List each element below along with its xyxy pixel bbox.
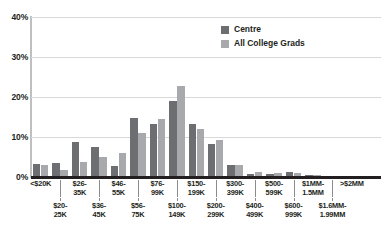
bars-layer bbox=[31, 17, 381, 177]
legend-swatch-icon-centre bbox=[221, 26, 229, 34]
x-axis-tick-mark bbox=[294, 198, 295, 201]
bar bbox=[138, 133, 145, 177]
y-axis-tick-label: 40% bbox=[0, 12, 28, 22]
bar-group bbox=[150, 17, 165, 177]
bar bbox=[208, 144, 215, 177]
x-axis-labels: <$20K$20-25K$26-35K$36-45K$46-55K$56-75K… bbox=[31, 179, 381, 227]
y-axis-labels: 0%10%20%30%40% bbox=[0, 0, 28, 227]
bar bbox=[99, 157, 106, 177]
bar-group bbox=[189, 17, 204, 177]
bar-group bbox=[325, 17, 340, 177]
bar-group bbox=[91, 17, 106, 177]
legend-swatch-icon-all-college-grads bbox=[221, 40, 229, 48]
bar-group bbox=[33, 17, 48, 177]
bar bbox=[130, 118, 137, 177]
x-axis-tick-mark bbox=[332, 198, 333, 201]
legend-label-all-college-grads: All College Grads bbox=[234, 39, 305, 48]
bar bbox=[52, 163, 59, 177]
y-axis-tick-label: 30% bbox=[0, 52, 28, 62]
bar-group bbox=[72, 17, 87, 177]
x-axis-tick-mark bbox=[60, 198, 61, 201]
x-axis-tick-mark bbox=[216, 198, 217, 201]
bar-group bbox=[111, 17, 126, 177]
bar bbox=[158, 119, 165, 177]
chart-legend: Centre All College Grads bbox=[221, 24, 305, 49]
y-axis-tick-label: 10% bbox=[0, 132, 28, 142]
x-axis-tick-mark bbox=[138, 198, 139, 201]
x-axis-tick-mark bbox=[255, 198, 256, 201]
bar bbox=[197, 129, 204, 177]
bar-group bbox=[344, 17, 359, 177]
bar bbox=[72, 142, 79, 177]
bar-group bbox=[169, 17, 184, 177]
bar bbox=[169, 101, 176, 177]
bar bbox=[150, 124, 157, 177]
legend-label-centre: Centre bbox=[234, 25, 261, 34]
x-axis-tick-label: $1.6MM-1.99MM bbox=[302, 202, 362, 219]
legend-item-all-college-grads: All College Grads bbox=[221, 38, 305, 49]
bar-chart: 0%10%20%30%40% <$20K$20-25K$26-35K$36-45… bbox=[0, 0, 385, 227]
x-axis-tick-mark bbox=[177, 198, 178, 201]
bar-group bbox=[305, 17, 320, 177]
legend-item-centre: Centre bbox=[221, 24, 305, 35]
x-axis-tick-label: >$2MM bbox=[322, 180, 382, 189]
bar-group bbox=[364, 17, 379, 177]
x-axis-tick-mark bbox=[99, 198, 100, 201]
bar-group bbox=[52, 17, 67, 177]
bar bbox=[216, 140, 223, 177]
bar bbox=[91, 147, 98, 177]
y-axis-tick-label: 20% bbox=[0, 92, 28, 102]
bar bbox=[119, 153, 126, 177]
bar bbox=[80, 162, 87, 177]
bar-group bbox=[130, 17, 145, 177]
bar bbox=[189, 124, 196, 177]
bar bbox=[177, 86, 184, 177]
